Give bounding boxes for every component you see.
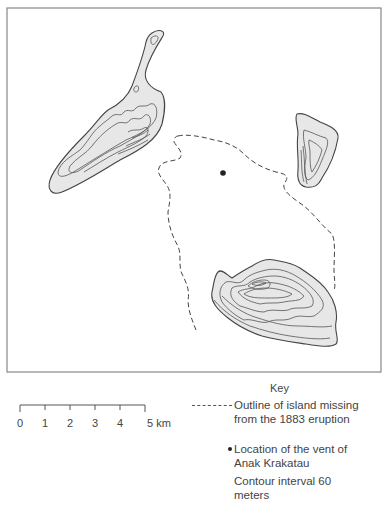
key-title: Key <box>270 382 289 394</box>
scale-tick-4: 4 <box>117 417 123 429</box>
scale-bar-line <box>18 399 158 413</box>
scale-tick-0: 0 <box>17 417 23 429</box>
contour-interval-note: Contour interval 60 meters <box>234 474 331 502</box>
key-item-missing-outline: Outline of island missing from the 1883 … <box>234 398 359 426</box>
scale-bar: 0 1 2 3 4 5 km <box>18 399 158 433</box>
scale-tick-1: 1 <box>42 417 48 429</box>
key-item-vent: Location of the vent of Anak Krakatau <box>234 442 347 470</box>
contour-note-line: Contour interval 60 <box>234 474 331 488</box>
key-label-line: from the 1883 eruption <box>234 412 359 426</box>
contour-note-line: meters <box>234 488 331 502</box>
dashed-line-symbol <box>192 405 232 406</box>
key-label-line: Location of the vent of <box>234 442 347 456</box>
vent-dot-symbol <box>228 447 232 451</box>
scale-tick-2: 2 <box>67 417 73 429</box>
key-label-line: Outline of island missing <box>234 398 359 412</box>
map <box>0 0 390 380</box>
scale-tick-3: 3 <box>92 417 98 429</box>
key-label-line: Anak Krakatau <box>234 456 347 470</box>
scale-tick-5: 5 km <box>147 417 171 429</box>
anak-krakatau-vent-dot <box>220 170 226 176</box>
